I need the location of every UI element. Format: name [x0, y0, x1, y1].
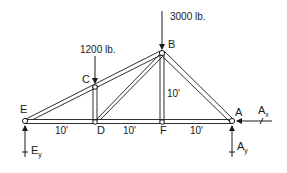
- joint-B-icon: [159, 50, 164, 55]
- reaction-Ay-sub: y: [244, 147, 248, 154]
- joint-A-icon: [229, 118, 234, 123]
- truss-joints: [22, 50, 234, 124]
- truss-diagram: E D F A B C 3000 lb. 1200 lb. 10' 10' 10…: [0, 0, 287, 173]
- member-DB-right: [100, 57, 162, 120]
- dimension-ED: 10': [55, 126, 68, 136]
- reaction-label-Ax: Ax: [258, 105, 269, 116]
- reaction-Ax-sub: x: [265, 111, 269, 118]
- load-label-B: 3000 lb.: [170, 12, 206, 22]
- truss-members: [25, 51, 234, 124]
- dimension-DF: 10': [123, 126, 136, 136]
- member-EB-upper: [25, 51, 160, 120]
- node-label-F: F: [160, 125, 167, 136]
- dimension-BF: 10': [167, 89, 180, 99]
- reaction-Ey-sub: y: [38, 151, 42, 158]
- node-label-A: A: [235, 107, 242, 118]
- node-label-E: E: [20, 104, 27, 115]
- load-label-C: 1200 lb.: [80, 45, 116, 55]
- dimension-FA: 10': [190, 126, 203, 136]
- reaction-label-Ay: Ay: [237, 141, 248, 152]
- node-label-B: B: [168, 39, 175, 50]
- joint-C-icon: [93, 85, 98, 90]
- member-DB-left: [96, 54, 160, 120]
- member-BA-upper: [164, 51, 234, 120]
- node-label-D: D: [97, 125, 105, 136]
- node-label-C: C: [82, 74, 90, 85]
- joint-E-icon: [22, 118, 27, 123]
- reaction-label-Ey: Ey: [31, 145, 42, 156]
